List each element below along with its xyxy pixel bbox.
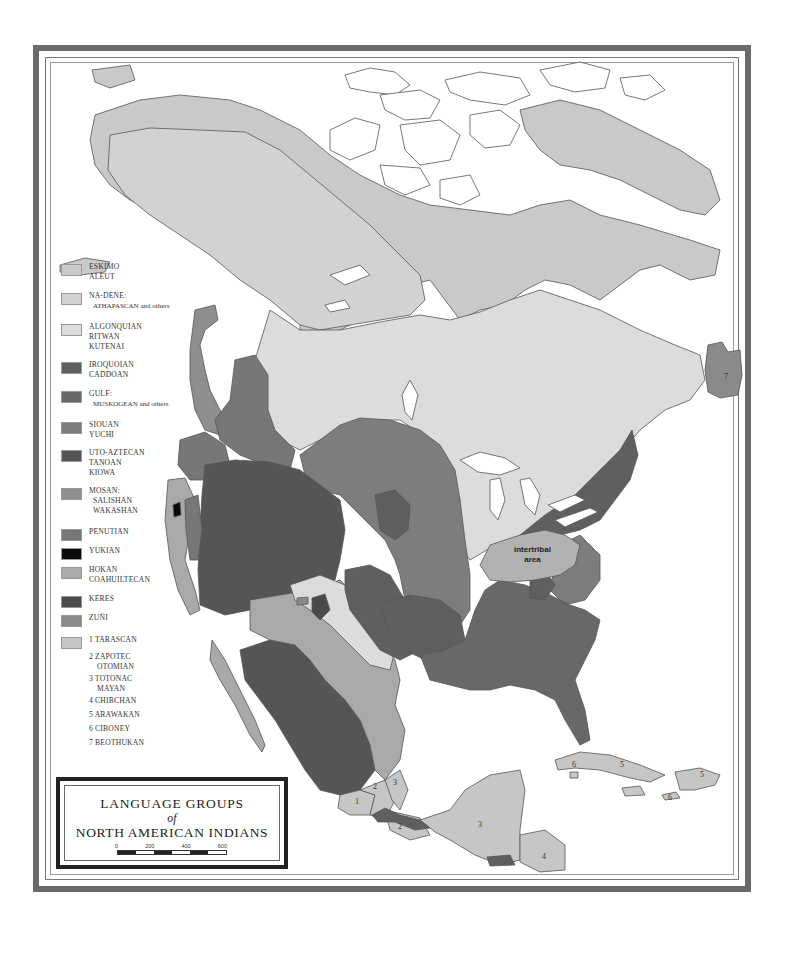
legend-label-keres: KERES [89, 594, 114, 604]
legend-item-chibchan: 4 CHIBCHAN [89, 696, 221, 710]
legend-label-yukian: YUKIAN [89, 546, 120, 556]
map-label-6a: 6 [572, 760, 576, 769]
scale-label: 0 [115, 843, 118, 849]
swatch-na-dene [61, 293, 82, 305]
intertribal-line2: area [514, 555, 551, 565]
legend-item-keres: KERES [61, 594, 221, 613]
legend-label-mosan: MOSAN:SALISHANWAKASHAN [89, 486, 138, 516]
map-label-1: 1 [355, 797, 359, 806]
legend-item-totonac: 3 TOTONACMAYAN [89, 674, 221, 696]
title-cartouche: LANGUAGE GROUPS of NORTH AMERICAN INDIAN… [56, 777, 288, 869]
legend-item-uto-aztecan: UTO-AZTECANTANOANKIOWA [61, 448, 221, 486]
map-label-6b: 6 [668, 793, 672, 802]
legend-line: OTOMIAN [89, 662, 221, 672]
legend-line: ESKIMO [89, 262, 119, 272]
title-cartouche-inner: LANGUAGE GROUPS of NORTH AMERICAN INDIAN… [64, 785, 280, 861]
map-title-line3: NORTH AMERICAN INDIANS [65, 825, 279, 840]
legend-item-na-dene: NA-DENE:ATHAPASCAN and others [61, 291, 221, 322]
swatch-mosan [61, 488, 82, 500]
legend-item-mosan: MOSAN:SALISHANWAKASHAN [61, 486, 221, 527]
map-label-7: 7 [724, 372, 728, 381]
map-label-2b: 2 [398, 822, 402, 831]
scale-label: 400 [182, 843, 191, 849]
legend-label-na-dene: NA-DENE:ATHAPASCAN and others [89, 291, 169, 311]
legend-item-siouan: SIOUANYUCHI [61, 420, 221, 448]
swatch-eskimo [61, 264, 82, 276]
map-title-line2: of [65, 812, 279, 825]
legend-item-iroquoian: IROQUOIANCADDOAN [61, 360, 221, 389]
swatch-siouan [61, 422, 82, 434]
map-label-3b: 3 [478, 820, 482, 829]
legend-line: PENUTIAN [89, 527, 129, 537]
legend-item-penutian: PENUTIAN [61, 527, 221, 546]
swatch-gulf [61, 391, 82, 403]
legend-label-uto-aztecan: UTO-AZTECANTANOANKIOWA [89, 448, 145, 478]
scale-label: 600 [218, 843, 227, 849]
legend-line: GULF: [89, 389, 168, 399]
intertribal-line1: intertribal [514, 545, 551, 555]
legend-item-zuni: ZUÑI [61, 613, 221, 635]
legend-line: SIOUAN [89, 420, 119, 430]
legend-item-tarascan: 1 TARASCAN [61, 635, 221, 652]
swatch-uto-aztecan [61, 450, 82, 462]
swatch-tarascan [61, 637, 82, 649]
swatch-penutian [61, 529, 82, 541]
legend-line: 4 CHIBCHAN [89, 696, 221, 706]
scale-labels: 0 200 400 600 [115, 843, 227, 849]
legend-item-eskimo: ESKIMOALEUT [61, 262, 221, 291]
legend: ESKIMOALEUT NA-DENE:ATHAPASCAN and other… [61, 262, 221, 752]
map-label-5a: 5 [620, 760, 624, 769]
map-title-line1: LANGUAGE GROUPS [65, 796, 279, 812]
swatch-algonquian [61, 324, 82, 336]
legend-line: MUSKOGEAN and others [89, 399, 168, 409]
legend-line: 5 ARAWAKAN [89, 710, 221, 720]
intertribal-area-label: intertribal area [514, 545, 551, 565]
legend-line: ALGONQUIAN [89, 322, 142, 332]
legend-label-hokan: HOKANCOAHUILTECAN [89, 565, 150, 585]
legend-item-beothukan: 7 BEOTHUKAN [89, 738, 221, 752]
legend-line: MOSAN: [89, 486, 138, 496]
legend-line: IROQUOIAN [89, 360, 134, 370]
legend-line: SALISHAN [89, 496, 138, 506]
legend-item-zapotec: 2 ZAPOTECOTOMIAN [89, 652, 221, 674]
legend-line: CADDOAN [89, 370, 134, 380]
scale-bar: 0 200 400 600 [117, 843, 227, 857]
legend-item-gulf: GULF:MUSKOGEAN and others [61, 389, 221, 420]
swatch-keres [61, 596, 82, 608]
region-greenland [520, 100, 720, 215]
legend-label-iroquoian: IROQUOIANCADDOAN [89, 360, 134, 380]
legend-line: YUKIAN [89, 546, 120, 556]
legend-item-yukian: YUKIAN [61, 546, 221, 565]
region-chibchan [520, 830, 565, 872]
legend-item-ciboney: 6 CIBONEY [89, 724, 221, 738]
legend-label-algonquian: ALGONQUIANRITWANKUTENAI [89, 322, 142, 352]
legend-line: YUCHI [89, 430, 119, 440]
legend-item-hokan: HOKANCOAHUILTECAN [61, 565, 221, 594]
swatch-iroquoian [61, 362, 82, 374]
swatch-hokan [61, 567, 82, 579]
legend-label-penutian: PENUTIAN [89, 527, 129, 537]
legend-label-eskimo: ESKIMOALEUT [89, 262, 119, 282]
legend-label-gulf: GULF:MUSKOGEAN and others [89, 389, 168, 409]
scale-label: 200 [145, 843, 154, 849]
map-label-2a: 2 [373, 782, 377, 791]
legend-label-siouan: SIOUANYUCHI [89, 420, 119, 440]
legend-line: 3 TOTONAC [89, 674, 221, 684]
legend-line: ZUÑI [89, 613, 108, 623]
legend-line: 6 CIBONEY [89, 724, 221, 734]
legend-label-tarascan: 1 TARASCAN [89, 635, 137, 645]
legend-line: HOKAN [89, 565, 150, 575]
legend-line: COAHUILTECAN [89, 575, 150, 585]
region-beothukan [705, 342, 742, 398]
legend-line: ALEUT [89, 272, 119, 282]
region-hispaniola [675, 768, 720, 790]
legend-item-algonquian: ALGONQUIANRITWANKUTENAI [61, 322, 221, 360]
legend-line: UTO-AZTECAN [89, 448, 145, 458]
legend-item-arawakan: 5 ARAWAKAN [89, 710, 221, 724]
legend-line: MAYAN [89, 684, 221, 694]
swatch-zuni [61, 615, 82, 627]
legend-line: 7 BEOTHUKAN [89, 738, 221, 748]
swatch-yukian [61, 548, 82, 560]
map-label-4: 4 [542, 852, 546, 861]
map-label-5b: 5 [700, 770, 704, 779]
